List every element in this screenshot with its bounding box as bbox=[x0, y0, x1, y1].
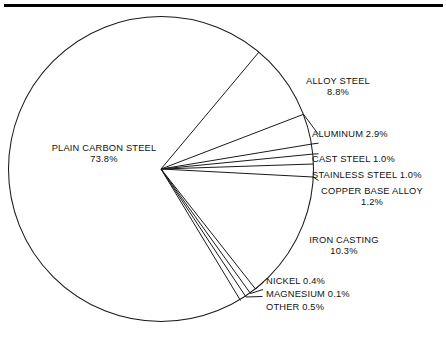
slice-label-aluminum: ALUMINUM 2.9% bbox=[312, 129, 388, 140]
slice-label-magnesium: MAGNESIUM 0.1% bbox=[266, 289, 350, 300]
slice-label-name: PLAIN CARBON STEEL bbox=[52, 143, 157, 153]
pie-chart-svg bbox=[0, 0, 446, 337]
slice-label-plain-carbon-steel: PLAIN CARBON STEEL 73.8% bbox=[34, 143, 174, 165]
leader-other bbox=[246, 297, 263, 298]
slice-label-name: NICKEL 0.4% bbox=[266, 276, 325, 286]
slice-label-other: OTHER 0.5% bbox=[266, 302, 324, 313]
slice-label-name: CAST STEEL 1.0% bbox=[312, 154, 395, 164]
slice-label-cast-steel: CAST STEEL 1.0% bbox=[312, 154, 395, 165]
slice-label-nickel: NICKEL 0.4% bbox=[266, 276, 325, 287]
slice-label-name: OTHER 0.5% bbox=[266, 302, 324, 312]
slice-label-copper-base-alloy: COPPER BASE ALLOY 1.2% bbox=[310, 186, 434, 208]
slice-label-name: MAGNESIUM 0.1% bbox=[266, 289, 350, 299]
slice-label-alloy-steel: ALLOY STEEL 8.8% bbox=[283, 76, 393, 98]
slice-label-name: ALUMINUM 2.9% bbox=[312, 129, 388, 139]
slice-label-name: STAINLESS STEEL 1.0% bbox=[312, 170, 422, 180]
pie-chart-figure: PLAIN CARBON STEEL 73.8% ALLOY STEEL 8.8… bbox=[0, 0, 446, 337]
slice-label-name: COPPER BASE ALLOY bbox=[321, 186, 423, 196]
slice-label-value: 1.2% bbox=[310, 197, 434, 208]
slice-label-name: IRON CASTING bbox=[309, 235, 378, 245]
slice-label-name: ALLOY STEEL bbox=[306, 76, 370, 86]
slice-label-iron-casting: IRON CASTING 10.3% bbox=[289, 235, 399, 257]
slice-label-value: 10.3% bbox=[289, 246, 399, 257]
slice-label-value: 8.8% bbox=[283, 87, 393, 98]
slice-label-value: 73.8% bbox=[34, 154, 174, 165]
slice-label-stainless-steel: STAINLESS STEEL 1.0% bbox=[312, 170, 422, 181]
leader-cast-steel bbox=[312, 143, 319, 144]
